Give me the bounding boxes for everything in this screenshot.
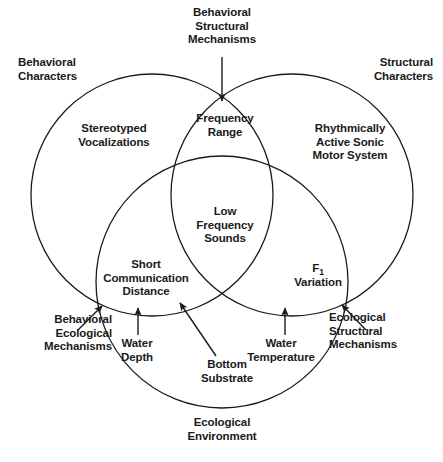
- label-ecological-structural-mechanisms: Ecological Structural Mechanisms: [329, 311, 441, 352]
- label-behavioral-ecological-mechanisms: Behavioral Ecological Mechanisms: [2, 313, 112, 354]
- label-low-frequency-sounds: Low Frequency Sounds: [170, 205, 280, 246]
- label-frequency-range: Frequency Range: [170, 112, 280, 139]
- label-f1-variation-rest: Variation: [294, 276, 342, 288]
- label-structural-characters: Structural Characters: [313, 56, 433, 83]
- label-rhythmically-active-sonic-motor-system: Rhythmically Active Sonic Motor System: [286, 122, 414, 163]
- label-f1-variation: F1 Variation: [272, 262, 364, 289]
- label-stereotyped-vocalizations: Stereotyped Vocalizations: [54, 122, 174, 149]
- label-behavioral-characters: Behavioral Characters: [18, 56, 138, 83]
- label-short-communication-distance: Short Communication Distance: [84, 258, 208, 299]
- label-water-temperature: Water Temperature: [232, 337, 330, 364]
- arrow-bottom-substrate: [180, 303, 216, 356]
- label-water-depth: Water Depth: [104, 337, 170, 364]
- label-behavioral-structural-mechanisms: Behavioral Structural Mechanisms: [152, 6, 292, 47]
- venn-diagram: Behavioral Characters Structural Charact…: [0, 0, 443, 462]
- label-ecological-environment: Ecological Environment: [152, 416, 292, 443]
